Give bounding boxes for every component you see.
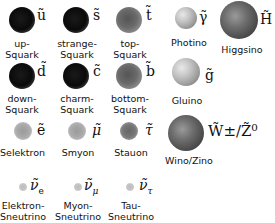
nu-tilde-symbol: ν̃ xyxy=(84,177,93,193)
tau-sneutrino-ball xyxy=(126,183,134,191)
selektron-ball xyxy=(14,122,32,140)
charm-squark-ball xyxy=(63,63,89,89)
smyon-symbol: μ̃ xyxy=(92,123,101,137)
charm-squark-label-2: Squark xyxy=(54,104,100,115)
higgsino-ball xyxy=(220,1,258,39)
smyon-label: Smyon xyxy=(58,147,98,158)
bottom-squark-symbol: b̃ xyxy=(146,64,155,78)
photino-ball xyxy=(175,7,197,29)
photino-symbol: γ̃ xyxy=(199,10,207,24)
bottom-squark-ball xyxy=(116,63,142,89)
nu-tilde-symbol: ν̃ xyxy=(139,177,148,193)
elektron-sneutrino-ball xyxy=(19,183,27,191)
elektron-sneutrino-label-2: Sneutrino xyxy=(0,211,46,222)
top-squark-label-2: Squark xyxy=(106,49,154,60)
wino-zino-symbol: W̃±/Z̃⁰ xyxy=(208,124,257,138)
higgsino-symbol: H̃ xyxy=(260,12,272,26)
top-squark-symbol: t̃ xyxy=(146,8,152,22)
tau-sneutrino-symbol: ν̃τ xyxy=(139,178,153,198)
tau-sneutrino-label-2: Sneutrino xyxy=(106,211,156,222)
elektron-sneutrino-symbol: ν̃e xyxy=(30,178,44,198)
top-squark-ball xyxy=(116,7,142,33)
wino-zino-ball xyxy=(168,115,204,151)
myon-sneutrino-ball xyxy=(74,183,82,191)
bottom-squark-label-1: bottom- xyxy=(104,93,156,104)
tau-sneutrino-label-1: Tau- xyxy=(110,200,152,211)
stauon-symbol: τ̃ xyxy=(145,123,153,137)
myon-sneutrino-symbol: ν̃μ xyxy=(84,178,98,198)
stauon-label: Stauon xyxy=(110,147,152,158)
up-squark-ball xyxy=(9,7,35,33)
down-squark-symbol: d̃ xyxy=(37,64,46,78)
myon-sneutrino-label-2: Sneutrino xyxy=(54,211,102,222)
strange-squark-ball xyxy=(63,7,89,33)
down-squark-ball xyxy=(9,63,35,89)
strange-squark-label-2: Squark xyxy=(54,49,100,60)
strange-squark-symbol: s̃ xyxy=(93,8,100,22)
selektron-symbol: ẽ xyxy=(37,123,45,137)
stauon-ball xyxy=(120,122,138,140)
gluino-label: Gluino xyxy=(166,95,208,106)
photino-label: Photino xyxy=(165,37,213,48)
strange-squark-label-1: strange- xyxy=(52,38,102,49)
selektron-label: Selektron xyxy=(0,147,44,158)
myon-sneutrino-label-1: Myon- xyxy=(56,200,100,211)
bottom-squark-label-2: Squark xyxy=(106,104,154,115)
subscript: e xyxy=(39,186,44,196)
up-squark-symbol: ũ xyxy=(37,8,46,22)
up-squark-label-1: up- xyxy=(4,38,40,49)
subscript: μ xyxy=(93,186,99,196)
elektron-sneutrino-label-1: Elektron- xyxy=(0,200,46,211)
charm-squark-label-1: charm- xyxy=(54,93,100,104)
nu-tilde-symbol: ν̃ xyxy=(30,177,39,193)
up-squark-label-2: Squark xyxy=(0,49,44,60)
down-squark-label-1: down- xyxy=(0,93,44,104)
gluino-symbol: g̃ xyxy=(205,68,214,82)
higgsino-label: Higgsino xyxy=(216,44,268,55)
gluino-ball xyxy=(172,58,200,86)
wino-zino-label: Wino/Zino xyxy=(160,155,218,166)
smyon-ball xyxy=(68,122,86,140)
charm-squark-symbol: c̃ xyxy=(93,64,101,78)
down-squark-label-2: Squark xyxy=(0,104,44,115)
subscript: τ xyxy=(148,186,153,196)
top-squark-label-1: top- xyxy=(110,38,150,49)
